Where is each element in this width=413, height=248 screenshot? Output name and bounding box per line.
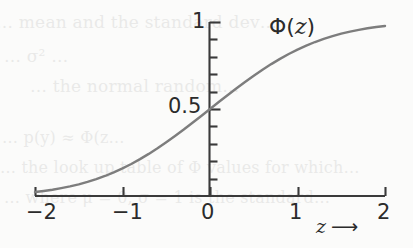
x-axis-variable: z (316, 215, 326, 237)
x-tick-label-0: 0 (201, 200, 214, 224)
x-axis-name-with-arrow: z ⟶ (316, 215, 358, 237)
y-tick-label-1: 1 (192, 9, 205, 33)
right-arrow-icon: ⟶ (331, 215, 358, 237)
curve-label-phi-of-z: Φ(z) (269, 14, 315, 39)
curve-label-phi: Φ( (269, 14, 295, 39)
curve-label-variable: z (295, 14, 307, 39)
x-tick-label-2: 2 (377, 200, 390, 224)
x-axis-ticks (36, 187, 386, 196)
curve-label-paren: ) (307, 14, 316, 39)
x-tick-label-1: 1 (289, 200, 302, 224)
normal-cdf-figure: … mean and the standard dev… … σ² … … th… (0, 0, 413, 248)
y-tick-label-0.5: 0.5 (168, 94, 201, 118)
x-tick-label-minus-1: −1 (112, 200, 143, 224)
x-tick-label-minus-2: −2 (26, 200, 57, 224)
